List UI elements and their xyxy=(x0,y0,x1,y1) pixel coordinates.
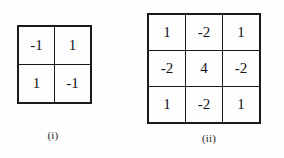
matrix-cell: 1 xyxy=(18,65,55,104)
matrix-cell: 4 xyxy=(186,51,223,87)
matrix-cell: -2 xyxy=(186,87,223,124)
matrix-cell: -2 xyxy=(223,51,261,87)
figure-canvas: -1 1 1 -1 1 -2 1 -2 4 xyxy=(0,0,284,158)
matrix-grid-i: -1 1 1 -1 xyxy=(17,25,92,104)
matrix-cell: 1 xyxy=(148,87,186,124)
matrix-figure-ii: 1 -2 1 -2 4 -2 1 -2 1 xyxy=(147,13,261,124)
matrix-row: -1 1 xyxy=(18,26,91,65)
matrix-cell: -1 xyxy=(18,26,55,65)
matrix-cell: -2 xyxy=(148,51,186,87)
matrix-cell: 1 xyxy=(148,14,186,51)
matrix-row: -2 4 -2 xyxy=(148,51,260,87)
matrix-cell: -1 xyxy=(55,65,92,104)
matrix-cell: 1 xyxy=(223,14,261,51)
matrix-row: 1 -2 1 xyxy=(148,87,260,124)
matrix-row: 1 -2 1 xyxy=(148,14,260,51)
matrix-grid-ii: 1 -2 1 -2 4 -2 1 -2 1 xyxy=(147,13,261,124)
matrix-figure-i: -1 1 1 -1 xyxy=(17,25,92,104)
figure-caption-ii: (ii) xyxy=(179,132,239,144)
matrix-cell: -2 xyxy=(186,14,223,51)
matrix-row: 1 -1 xyxy=(18,65,91,104)
matrix-cell: 1 xyxy=(55,26,92,65)
matrix-cell: 1 xyxy=(223,87,261,124)
figure-caption-i: (i) xyxy=(23,129,83,141)
